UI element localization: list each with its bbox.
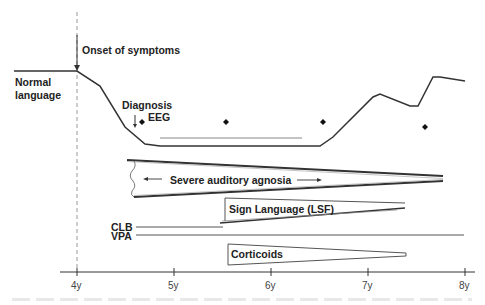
wavy-edge	[130, 161, 135, 197]
eeg-label: EEG	[148, 111, 170, 123]
normal-language-label-1: Normal	[15, 76, 51, 88]
sign-language-label: Sign Language (LSF)	[229, 203, 334, 215]
diagnosis-label: Diagnosis	[122, 99, 172, 111]
eeg-marker-icon	[422, 124, 428, 130]
caption-cropped	[12, 298, 472, 301]
x-tick-label-6y: 6y	[265, 280, 276, 291]
x-tick-label-8y: 8y	[459, 280, 470, 291]
x-tick-label-7y: 7y	[362, 280, 373, 291]
diagnosis-arrow-head	[133, 124, 137, 128]
vpa-label: VPA	[111, 230, 132, 242]
right-arrow-icon	[317, 178, 322, 182]
left-arrow-icon	[143, 177, 148, 181]
eeg-marker-icon	[139, 119, 145, 125]
eeg-marker-icon	[223, 119, 229, 125]
corticoids-label: Corticoids	[231, 248, 283, 260]
x-tick-label-4y: 4y	[71, 280, 82, 291]
onset-label: Onset of symptoms	[82, 44, 180, 56]
normal-language-label-2: language	[15, 89, 61, 101]
eeg-markers	[139, 119, 428, 130]
onset-arrow-head	[74, 65, 80, 71]
agnosia-label: Severe auditory agnosia	[170, 174, 291, 186]
language-curve	[14, 71, 465, 146]
eeg-marker-icon	[320, 119, 326, 125]
x-tick-label-5y: 5y	[168, 280, 179, 291]
